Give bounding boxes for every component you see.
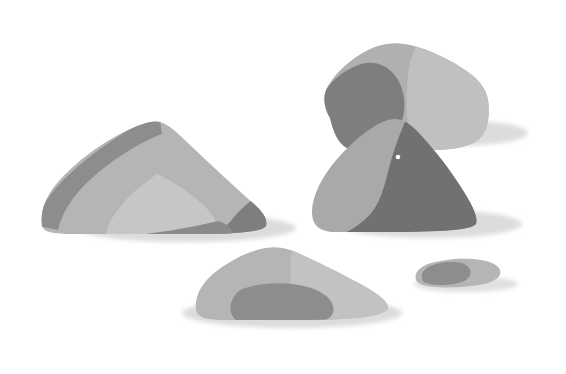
illustration-canvas: Stylized gray rock cluster illustration (0, 0, 566, 374)
rock-mid-right-highlight-speck (396, 155, 401, 160)
rock-scene (0, 0, 566, 374)
